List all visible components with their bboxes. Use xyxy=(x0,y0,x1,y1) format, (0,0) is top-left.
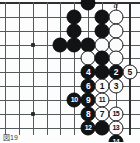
go-stone-white-move-11[interactable]: 11 xyxy=(94,92,109,107)
go-stone-white-move-3[interactable]: 3 xyxy=(108,79,123,94)
go-stone-black[interactable] xyxy=(53,37,68,52)
go-stone-black-move-9[interactable]: 9 xyxy=(81,92,96,107)
move-number: 12 xyxy=(85,124,92,131)
move-number: 3 xyxy=(114,81,118,90)
go-stone-black[interactable] xyxy=(94,23,109,38)
go-stone-black[interactable] xyxy=(94,51,109,66)
move-number: 9 xyxy=(86,95,90,104)
go-stone-white[interactable] xyxy=(108,9,123,24)
move-number: 7 xyxy=(100,109,104,118)
board-grid-line-vertical xyxy=(5,2,6,135)
move-number: 10 xyxy=(71,96,78,103)
go-stone-white-move-1[interactable]: 1 xyxy=(94,79,109,94)
go-stone-black[interactable] xyxy=(81,37,96,52)
go-stone-black-move-12[interactable]: 12 xyxy=(81,120,96,135)
board-grid-line-vertical xyxy=(60,2,61,135)
go-stone-white[interactable] xyxy=(108,51,123,66)
go-board[interactable]: a425613109118715121314 xyxy=(0,0,140,132)
move-number: 5 xyxy=(128,68,132,77)
go-stone-black[interactable] xyxy=(94,65,109,80)
move-number: 15 xyxy=(112,110,119,117)
go-stone-white[interactable] xyxy=(81,51,96,66)
go-stone-white-move-7[interactable]: 7 xyxy=(94,106,109,121)
go-diagram-screenshot: a425613109118715121314 図19 xyxy=(0,0,140,142)
go-stone-black-move-10[interactable]: 10 xyxy=(67,92,82,107)
go-stone-white[interactable] xyxy=(108,37,123,52)
go-stone-black[interactable] xyxy=(81,0,96,11)
go-stone-black[interactable] xyxy=(67,9,82,24)
go-stone-black-move-8[interactable]: 8 xyxy=(81,106,96,121)
board-grid-line-vertical xyxy=(19,2,20,135)
go-stone-black-move-6[interactable]: 6 xyxy=(81,79,96,94)
board-grid-line-vertical xyxy=(47,2,48,135)
go-stone-black[interactable] xyxy=(67,37,82,52)
go-stone-white-move-15[interactable]: 15 xyxy=(108,106,123,121)
move-number: 14 xyxy=(112,138,119,143)
move-number: 1 xyxy=(100,81,104,90)
move-number: 11 xyxy=(99,96,105,103)
hoshi-star-point xyxy=(31,112,35,116)
go-stone-white[interactable] xyxy=(94,37,109,52)
go-stone-white-move-5[interactable]: 5 xyxy=(122,65,137,80)
figure-caption: 図19 xyxy=(3,132,18,142)
board-grid-line-horizontal xyxy=(0,2,140,4)
go-stone-white[interactable] xyxy=(108,23,123,38)
go-stone-black-move-14[interactable]: 14 xyxy=(108,134,123,142)
move-number: 4 xyxy=(86,68,90,77)
go-stone-black-move-4[interactable]: 4 xyxy=(81,65,96,80)
go-stone-black-move-2[interactable]: 2 xyxy=(108,65,123,80)
go-stone-black[interactable] xyxy=(94,9,109,24)
move-number: 6 xyxy=(86,81,90,90)
move-number: 2 xyxy=(114,68,118,77)
go-stone-black[interactable] xyxy=(94,120,109,135)
move-number: 13 xyxy=(112,124,119,131)
go-stone-white-move-13[interactable]: 13 xyxy=(108,120,123,135)
hoshi-star-point xyxy=(31,43,35,47)
move-number: 8 xyxy=(86,109,90,118)
go-stone-black[interactable] xyxy=(67,23,82,38)
